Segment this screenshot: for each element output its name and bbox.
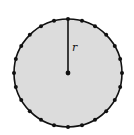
perimeter-point: [52, 19, 56, 23]
perimeter-point: [104, 109, 108, 113]
perimeter-point: [66, 125, 70, 129]
perimeter-point: [28, 109, 32, 113]
perimeter-point: [12, 71, 16, 75]
perimeter-point: [39, 118, 43, 122]
perimeter-point: [118, 57, 122, 61]
perimeter-point: [14, 57, 18, 61]
perimeter-point: [19, 98, 23, 102]
perimeter-point: [28, 33, 32, 37]
perimeter-point: [113, 98, 117, 102]
perimeter-point: [118, 85, 122, 89]
perimeter-point: [19, 44, 23, 48]
perimeter-point: [80, 19, 84, 23]
radius-label: r: [72, 41, 78, 54]
perimeter-point: [14, 85, 18, 89]
perimeter-point: [80, 123, 84, 127]
perimeter-point: [120, 71, 124, 75]
perimeter-point: [93, 24, 97, 28]
perimeter-point: [39, 24, 43, 28]
circle-diagram: r: [0, 0, 134, 135]
perimeter-point: [93, 118, 97, 122]
center-point: [66, 71, 71, 76]
perimeter-point: [113, 44, 117, 48]
perimeter-point: [104, 33, 108, 37]
perimeter-point: [52, 123, 56, 127]
